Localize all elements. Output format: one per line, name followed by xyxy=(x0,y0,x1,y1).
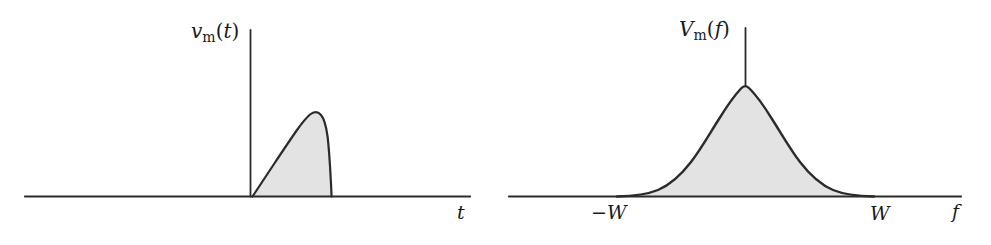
y-axis-label-open-paren: ( xyxy=(216,19,224,43)
spectrum-label-argument: f xyxy=(715,17,722,41)
minus-sign: − xyxy=(591,201,607,223)
time-domain-plot xyxy=(0,0,495,245)
pulse-fill xyxy=(253,112,332,196)
y-axis-label-close-paren: ) xyxy=(232,19,240,43)
y-axis-label-symbol: v xyxy=(191,19,202,43)
x-axis-label-frequency-domain: f xyxy=(952,202,959,221)
spectrum-label-symbol: V xyxy=(679,17,693,41)
figure-container: vm(t) t Vm(f) −W W f xyxy=(0,0,991,245)
spectrum-label-close-paren: ) xyxy=(722,17,730,41)
y-axis-label-frequency-domain: Vm(f) xyxy=(679,19,730,42)
spectrum-label-open-paren: ( xyxy=(707,17,715,41)
y-axis-label-argument: t xyxy=(224,19,232,43)
tick-label-negative-bandwidth: −W xyxy=(591,203,626,222)
panel-frequency-domain: Vm(f) −W W f xyxy=(495,0,991,245)
x-axis-label-time-domain: t xyxy=(457,203,465,222)
y-axis-label-subscript: m xyxy=(202,29,215,45)
tick-label-positive-bandwidth: W xyxy=(870,204,890,223)
spectrum-fill xyxy=(617,86,874,196)
y-axis-label-time-domain: vm(t) xyxy=(191,21,239,44)
spectrum-label-subscript: m xyxy=(693,27,706,43)
bandwidth-symbol-negative: W xyxy=(607,201,627,223)
frequency-domain-plot xyxy=(495,0,991,245)
panel-time-domain: vm(t) t xyxy=(0,0,495,245)
